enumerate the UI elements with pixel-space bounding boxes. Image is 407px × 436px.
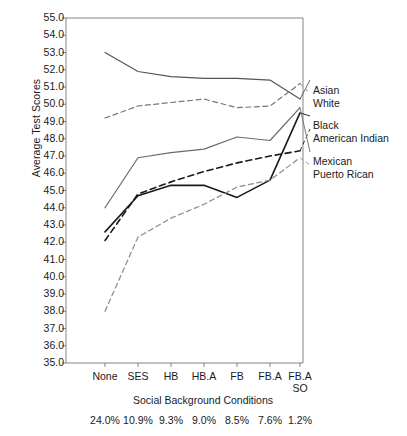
legend-label-mexican: Mexican (313, 155, 352, 168)
legend-label-black: Black (313, 119, 339, 132)
legend-label-white: White (313, 97, 340, 110)
legend-label-american-indian: American Indian (313, 132, 389, 145)
chart-container: Average Test Scores 55.054.053.052.051.0… (0, 0, 407, 436)
legend: AsianWhiteBlackAmerican IndianMexicanPue… (0, 0, 407, 436)
legend-label-puerto-rican: Puerto Rican (313, 168, 374, 181)
legend-label-asian: Asian (313, 84, 339, 97)
